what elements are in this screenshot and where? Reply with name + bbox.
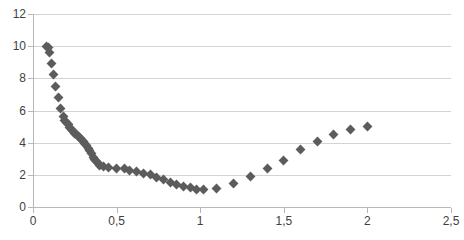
y-axis-label: 8 — [0, 72, 26, 84]
data-point-marker — [262, 163, 272, 173]
x-axis-label: 0,5 — [97, 215, 137, 227]
data-point-marker — [53, 93, 63, 103]
plot-area — [33, 14, 451, 207]
y-axis-label: 6 — [0, 105, 26, 117]
x-tick-mark — [33, 208, 34, 213]
x-axis-label: 0 — [13, 215, 53, 227]
data-point-marker — [362, 122, 372, 132]
data-point-marker — [229, 179, 239, 189]
data-point-marker — [199, 184, 209, 194]
x-axis-label: 2,5 — [431, 215, 464, 227]
x-tick-mark — [200, 208, 201, 213]
y-axis-label: 10 — [0, 40, 26, 52]
data-point-marker — [279, 155, 289, 165]
y-axis-label: 12 — [0, 8, 26, 20]
x-tick-mark — [284, 208, 285, 213]
x-axis-line — [33, 207, 451, 208]
data-point-marker — [346, 125, 356, 135]
x-tick-mark — [451, 208, 452, 213]
data-point-marker — [48, 69, 58, 79]
data-point-marker — [212, 184, 222, 194]
y-axis-label: 2 — [0, 169, 26, 181]
data-point-marker — [51, 81, 61, 91]
data-point-marker — [312, 136, 322, 146]
x-tick-mark — [117, 208, 118, 213]
data-point-marker — [245, 171, 255, 181]
data-point-marker — [329, 130, 339, 140]
data-point-marker — [45, 48, 55, 58]
y-axis-label: 4 — [0, 137, 26, 149]
x-tick-mark — [367, 208, 368, 213]
x-axis-label: 1 — [180, 215, 220, 227]
x-axis-label: 1,5 — [264, 215, 304, 227]
x-axis-label: 2 — [347, 215, 387, 227]
y-axis-label: 0 — [0, 201, 26, 213]
data-point-marker — [296, 144, 306, 154]
data-point-marker — [46, 59, 56, 69]
